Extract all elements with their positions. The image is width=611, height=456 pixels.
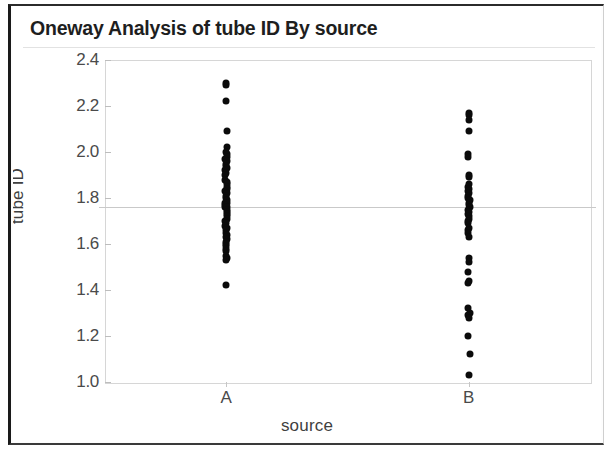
data-point bbox=[465, 280, 472, 287]
data-point bbox=[222, 282, 229, 289]
data-point bbox=[465, 314, 472, 321]
data-point bbox=[224, 128, 231, 135]
data-point bbox=[223, 98, 230, 105]
y-axis-tick-mark bbox=[105, 244, 111, 245]
y-axis-tick-mark bbox=[105, 106, 111, 107]
data-point bbox=[466, 234, 473, 241]
y-axis-tick-label: 1.8 bbox=[76, 188, 99, 208]
data-point bbox=[465, 128, 472, 135]
x-axis-tick-label: B bbox=[463, 388, 474, 408]
data-point bbox=[223, 257, 230, 264]
x-axis-tick-label: A bbox=[221, 388, 232, 408]
y-axis-tick-label: 2.0 bbox=[76, 142, 99, 162]
y-axis-tick-label: 2.2 bbox=[76, 96, 99, 116]
data-point bbox=[465, 259, 472, 266]
y-axis-tick-mark bbox=[105, 60, 111, 61]
x-axis-tick-mark bbox=[469, 382, 470, 387]
y-axis-tick-mark bbox=[105, 198, 111, 199]
y-axis-tick-label: 1.4 bbox=[76, 280, 99, 300]
data-point bbox=[466, 372, 473, 379]
x-axis-tick-mark bbox=[226, 382, 227, 387]
y-axis-tick-label: 2.4 bbox=[76, 50, 99, 70]
y-axis-tick-mark bbox=[105, 336, 111, 337]
grand-mean-line bbox=[99, 207, 596, 208]
y-axis-tick-label: 1.0 bbox=[76, 372, 99, 392]
plot-frame bbox=[105, 60, 592, 384]
oneway-analysis-report-panel: Oneway Analysis of tube ID By source 1.0… bbox=[13, 6, 601, 442]
y-axis-title: tube ID bbox=[13, 168, 28, 224]
data-point bbox=[222, 82, 229, 89]
y-axis-tick-labels: 1.01.21.41.61.82.02.22.4 bbox=[43, 6, 99, 442]
data-point bbox=[465, 116, 472, 123]
data-point bbox=[464, 153, 471, 160]
y-axis-tick-label: 1.2 bbox=[76, 326, 99, 346]
data-point bbox=[466, 351, 473, 358]
oneway-scatter-chart: 1.01.21.41.61.82.02.22.4 tube ID source … bbox=[13, 6, 601, 442]
y-axis-tick-label: 1.6 bbox=[76, 234, 99, 254]
x-axis-title: source bbox=[13, 416, 601, 436]
y-axis-tick-mark bbox=[105, 290, 111, 291]
data-point bbox=[464, 333, 471, 340]
data-point bbox=[465, 268, 472, 275]
y-axis-tick-mark bbox=[105, 152, 111, 153]
y-axis-tick-mark bbox=[105, 382, 111, 383]
screenshot-root: Oneway Analysis of tube ID By source 1.0… bbox=[0, 0, 611, 456]
